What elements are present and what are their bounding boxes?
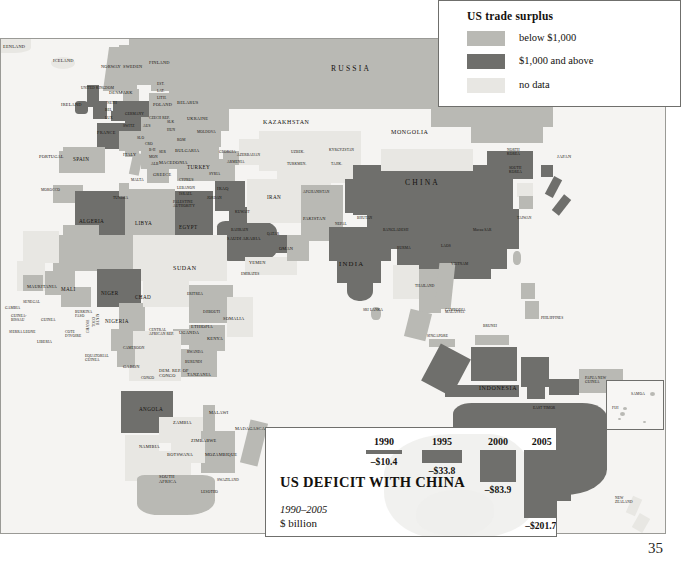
fiji-island-dot-1 (623, 407, 627, 410)
bar-value-1995: –$33.8 (429, 465, 455, 476)
bar-1990 (366, 450, 402, 454)
legend-label-above: $1,000 and above (519, 55, 593, 66)
fiji-island-dot-2 (620, 412, 625, 416)
legend-panel: US trade surplus below $1,000 $1,000 and… (438, 0, 681, 107)
legend-swatch-above (467, 54, 505, 69)
page-root: EENLAND ICELAND NORWAY SWEDEN FINLAND RU… (0, 0, 681, 567)
bar-year-1995: 1995 (432, 436, 452, 447)
bar-1995 (422, 450, 462, 463)
bar-year-2000: 2000 (488, 436, 508, 447)
bar-2000 (480, 450, 516, 482)
fiji-island-dot-3 (618, 418, 621, 420)
oceania-label-fiji: FIJI (612, 406, 619, 410)
bar-value-2000: –$83.9 (485, 484, 511, 495)
oceania-island-dot-4 (643, 421, 646, 423)
oceania-label-samoa: SAMOA (631, 392, 645, 396)
legend-swatch-below (467, 31, 505, 46)
bar-column-2005[interactable]: 2005 –$201.7 (520, 428, 557, 537)
legend-label-below: below $1,000 (519, 32, 576, 43)
us-deficit-china-chart[interactable]: US DEFICIT WITH CHINA 1990–2005 $ billio… (265, 427, 557, 537)
bar-value-1990: –$10.4 (371, 456, 397, 467)
bar-column-2000[interactable]: 2000 –$83.9 (474, 428, 522, 537)
bar-year-1990: 1990 (374, 436, 394, 447)
legend-swatch-nodata (467, 78, 505, 93)
chart-subtitle: 1990–2005 (280, 504, 327, 515)
bar-value-2005: –$201.7 (525, 520, 556, 531)
chart-unit-label: $ billion (280, 517, 317, 529)
bar-column-1995[interactable]: 1995 –$33.8 (418, 428, 466, 537)
samoa-island-dot (650, 392, 655, 396)
legend-label-nodata: no data (519, 79, 550, 90)
legend-title: US trade surplus (467, 10, 553, 22)
bar-column-1990[interactable]: 1990 –$10.4 (360, 428, 408, 537)
page-number: 35 (648, 540, 663, 557)
bar-2005 (524, 450, 557, 518)
bar-year-2005: 2005 (532, 436, 552, 447)
oceania-inset[interactable]: SAMOA FIJI (606, 380, 664, 430)
